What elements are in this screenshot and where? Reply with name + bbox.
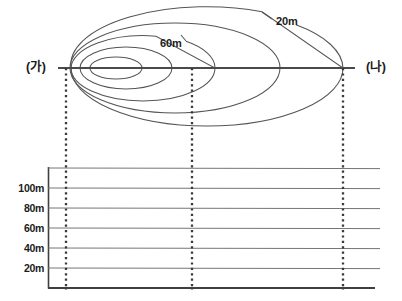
profile-start-label: (가) (26, 61, 46, 74)
gridline-top (48, 168, 380, 169)
tick-label-40m: 40m (4, 243, 44, 254)
contour-label-60m: 60m (160, 38, 182, 49)
gridline-60m (48, 228, 380, 229)
tick-label-20m: 20m (4, 263, 44, 274)
tick-label-100m: 100m (4, 183, 44, 194)
tick-label-80m: 80m (4, 203, 44, 214)
tick-label-60m: 60m (4, 223, 44, 234)
projection-line-group (66, 68, 343, 290)
gridline-100m (48, 188, 380, 189)
leader-20m (262, 12, 272, 19)
contour-label-20m: 20m (276, 16, 298, 27)
contour-leader-group (181, 12, 272, 41)
gridline-40m (48, 248, 380, 249)
gridline-80m (48, 208, 380, 209)
profile-end-label: (나) (366, 61, 386, 74)
contour-cross-section-figure: (가) (나) 20m 60m 100m 80m 60m 40m 20m (0, 0, 402, 301)
gridline-20m (48, 268, 380, 269)
figure-canvas (0, 0, 402, 301)
cross-section-gridlines (48, 168, 380, 269)
contour-group (70, 7, 343, 126)
